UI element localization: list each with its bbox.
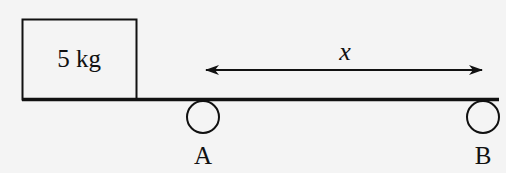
roller-a-icon: [187, 101, 219, 133]
diagram-svg: 5 kg x A B: [0, 0, 506, 173]
mass-label: 5 kg: [57, 45, 101, 72]
support-b: B: [467, 101, 499, 169]
support-a-label: A: [194, 142, 212, 169]
roller-b-icon: [467, 101, 499, 133]
support-a: A: [187, 101, 219, 169]
displacement-label: x: [338, 37, 351, 66]
support-b-label: B: [475, 142, 492, 169]
mass-block: 5 kg: [23, 20, 137, 100]
displacement-arrow: x: [206, 37, 482, 70]
diagram-canvas: 5 kg x A B: [0, 0, 506, 173]
